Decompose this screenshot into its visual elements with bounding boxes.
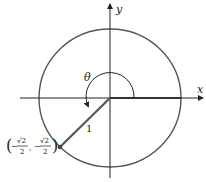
x-axis-label: x [197, 83, 204, 96]
unit-circle-diagram: y x θ 1 ( − √2 2 , − √2 2 ) [0, 0, 206, 182]
y-axis-label: y [115, 3, 123, 16]
svg-text:2: 2 [20, 148, 24, 156]
angle-label: θ [84, 71, 91, 84]
point-marker [58, 145, 63, 150]
radius-label: 1 [86, 123, 92, 134]
svg-text:): ) [52, 136, 58, 155]
terminal-side [60, 98, 110, 147]
point-label: ( − √2 2 , − √2 2 ) [6, 136, 58, 156]
svg-text:,: , [29, 143, 32, 152]
svg-text:2: 2 [43, 148, 47, 156]
svg-text:√2: √2 [40, 137, 49, 145]
svg-text:√2: √2 [17, 137, 26, 145]
